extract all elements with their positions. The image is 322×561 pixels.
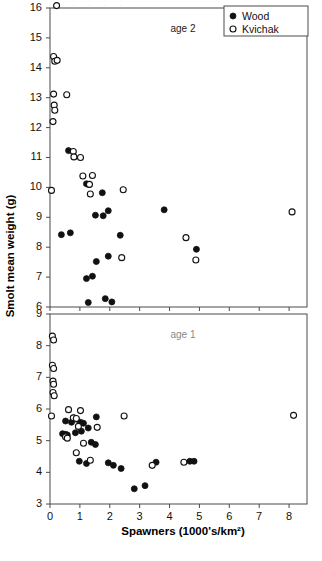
data-point: [72, 430, 78, 436]
panel-title-upper: age 2: [170, 23, 195, 34]
y-tick-label-upper-12: 12: [30, 121, 42, 133]
data-point: [75, 423, 81, 429]
y-tick-label-upper-15: 15: [30, 31, 42, 43]
y-tick-label-upper-9: 9: [36, 210, 42, 222]
data-point: [66, 407, 72, 413]
series-upper-wood: [58, 148, 199, 306]
plot-frame-upper: [50, 8, 307, 307]
data-point: [100, 213, 106, 219]
data-point: [93, 259, 99, 265]
data-point: [48, 187, 54, 193]
data-point: [67, 230, 73, 236]
data-point: [89, 273, 95, 279]
data-point: [119, 255, 125, 261]
legend-label-wood: Wood: [242, 10, 269, 22]
data-point: [89, 172, 95, 178]
data-point: [193, 246, 199, 252]
panel-upper: 678910111213141516age 2: [30, 1, 307, 312]
y-tick-label-lower-3: 3: [36, 497, 42, 509]
data-point: [105, 208, 111, 214]
data-point: [54, 3, 60, 9]
data-point: [77, 155, 83, 161]
y-tick-label-upper-8: 8: [36, 240, 42, 252]
y-tick-label-lower-5: 5: [36, 434, 42, 446]
data-point: [131, 486, 137, 492]
scatter-plot-figure: 678910111213141516age 23456789012345678a…: [0, 0, 322, 561]
data-point: [149, 462, 155, 468]
data-point: [73, 450, 79, 456]
y-tick-label-upper-14: 14: [30, 61, 42, 73]
data-point: [73, 416, 79, 422]
data-point: [71, 154, 77, 160]
data-point: [117, 232, 123, 238]
data-point: [87, 457, 93, 463]
data-point: [120, 187, 126, 193]
data-point: [105, 253, 111, 259]
panel-lower: 3456789012345678age 1: [36, 307, 307, 522]
data-point: [64, 435, 70, 441]
data-point: [289, 209, 295, 215]
data-point: [92, 212, 98, 218]
data-point: [50, 119, 56, 125]
x-tick-label-0: 0: [47, 510, 53, 522]
plot-frame-lower: [50, 314, 307, 504]
x-axis-label: Spawners (1000's/km²): [121, 525, 245, 537]
x-tick-label-3: 3: [137, 510, 143, 522]
data-point: [48, 413, 54, 419]
data-point: [121, 413, 127, 419]
data-point: [291, 412, 297, 418]
data-point: [85, 425, 91, 431]
y-tick-label-lower-4: 4: [36, 465, 42, 477]
data-point: [183, 235, 189, 241]
data-point: [102, 296, 108, 302]
data-point: [52, 107, 58, 113]
data-point: [86, 181, 92, 187]
series-upper-kvichak: [48, 3, 295, 263]
data-point: [118, 466, 124, 472]
data-point: [94, 424, 100, 430]
data-point: [54, 57, 60, 63]
x-tick-label-7: 7: [256, 510, 262, 522]
legend-label-kvichak: Kvichak: [242, 23, 280, 35]
y-tick-label-lower-9: 9: [36, 307, 42, 319]
data-point: [85, 300, 91, 306]
data-point: [191, 458, 197, 464]
legend: WoodKvichak: [224, 6, 308, 36]
data-point: [93, 414, 99, 420]
data-point: [161, 207, 167, 213]
data-point: [181, 459, 187, 465]
data-point: [58, 232, 64, 238]
data-point: [51, 381, 57, 387]
panel-title-lower: age 1: [170, 329, 195, 340]
data-point: [64, 92, 70, 98]
figure-root: . . . . . . . . 678910111213141516age 23…: [0, 0, 322, 561]
y-tick-label-lower-6: 6: [36, 402, 42, 414]
data-point: [51, 91, 57, 97]
x-tick-label-2: 2: [107, 510, 113, 522]
x-tick-label-6: 6: [226, 510, 232, 522]
x-tick-label-8: 8: [286, 510, 292, 522]
y-tick-label-upper-10: 10: [30, 180, 42, 192]
data-point: [110, 462, 116, 468]
data-point: [77, 408, 83, 414]
data-point: [87, 191, 93, 197]
y-tick-label-lower-7: 7: [36, 370, 42, 382]
series-lower-kvichak: [48, 333, 296, 468]
data-point: [109, 299, 115, 305]
data-point: [76, 458, 82, 464]
y-tick-label-upper-7: 7: [36, 270, 42, 282]
y-axis-label: Smolt mean weight (g): [4, 194, 16, 317]
y-tick-label-upper-16: 16: [30, 1, 42, 13]
data-point: [51, 365, 57, 371]
data-point: [92, 441, 98, 447]
data-point: [99, 190, 105, 196]
data-point: [142, 483, 148, 489]
y-tick-label-upper-11: 11: [31, 150, 42, 162]
y-tick-label-lower-8: 8: [36, 339, 42, 351]
data-point: [51, 337, 57, 343]
data-point: [80, 440, 86, 446]
data-point: [83, 276, 89, 282]
legend-marker-wood: [230, 13, 236, 19]
data-point: [63, 418, 69, 424]
x-tick-label-1: 1: [77, 510, 83, 522]
